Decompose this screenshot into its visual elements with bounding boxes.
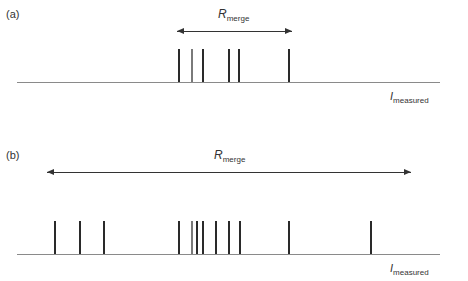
peak-bar — [202, 221, 204, 254]
panel-label: (b) — [6, 149, 19, 161]
arrow-head-right-icon — [404, 169, 411, 175]
range-subscript: merge — [223, 155, 246, 164]
axis-subscript: measured — [393, 268, 429, 277]
arrow-line — [47, 172, 411, 173]
peak-bar — [79, 221, 81, 254]
arrow-head-left-icon — [47, 169, 54, 175]
peak-bar — [215, 221, 217, 254]
peak-bar — [196, 221, 198, 254]
range-label: Rmerge — [214, 148, 245, 162]
peak-bar — [288, 221, 290, 254]
peak-bar-highlight — [191, 221, 193, 254]
peak-bar — [228, 221, 230, 254]
range-symbol: R — [214, 148, 223, 162]
peak-bar — [54, 221, 56, 254]
panel-b: (b) Rmerge Imeasured — [0, 0, 468, 281]
peak-bar — [178, 221, 180, 254]
axis-label: Imeasured — [390, 262, 429, 274]
peak-bar — [370, 221, 372, 254]
peak-bar — [239, 221, 241, 254]
peak-bar — [103, 221, 105, 254]
x-axis — [17, 254, 440, 255]
